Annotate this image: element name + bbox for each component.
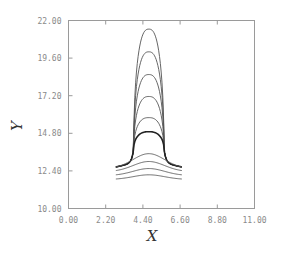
y-tick-label: 22.00 bbox=[37, 17, 61, 26]
x-tick-label: 0.00 bbox=[59, 216, 78, 225]
y-axis-ticks: 10.0012.4014.8017.2019.6022.00 bbox=[37, 17, 72, 214]
plot-frame bbox=[69, 21, 255, 209]
curve-profile-9 bbox=[116, 169, 182, 175]
x-tick-label: 11.00 bbox=[242, 216, 266, 225]
curve-profile-10 bbox=[116, 175, 182, 179]
y-axis-title: Y bbox=[8, 119, 26, 131]
y-tick-label: 10.00 bbox=[37, 205, 61, 214]
curve-family bbox=[116, 29, 182, 179]
x-axis-title: X bbox=[146, 227, 159, 245]
y-tick-label: 14.80 bbox=[37, 129, 61, 138]
y-tick-label: 19.60 bbox=[37, 54, 61, 63]
curve-profile-2 bbox=[116, 52, 182, 167]
curve-profile-8 bbox=[116, 162, 182, 171]
y-tick-label: 12.40 bbox=[37, 167, 61, 176]
curve-profile-3 bbox=[116, 75, 182, 167]
y-tick-label: 17.20 bbox=[37, 92, 61, 101]
x-tick-label: 6.60 bbox=[170, 216, 189, 225]
x-tick-label: 4.40 bbox=[133, 216, 152, 225]
chart-canvas: 0.002.204.406.608.8011.00 10.0012.4014.8… bbox=[0, 0, 288, 261]
curve-profile-5 bbox=[116, 118, 182, 167]
curve-profile-1 bbox=[116, 29, 182, 167]
x-tick-label: 2.20 bbox=[96, 216, 115, 225]
x-tick-label: 8.80 bbox=[208, 216, 227, 225]
